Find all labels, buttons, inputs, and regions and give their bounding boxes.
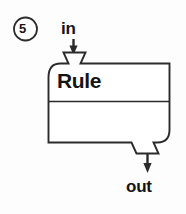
output-arrow-head-icon bbox=[143, 163, 151, 173]
rule-block-title: Rule bbox=[57, 70, 101, 91]
rule-block-outline bbox=[49, 53, 170, 154]
diagram-canvas bbox=[0, 0, 186, 214]
rule-block-diagram: 5 in Rule out bbox=[0, 0, 186, 214]
output-port-label: out bbox=[126, 178, 152, 195]
marker-number: 5 bbox=[19, 22, 26, 35]
input-port-label: in bbox=[61, 20, 76, 37]
